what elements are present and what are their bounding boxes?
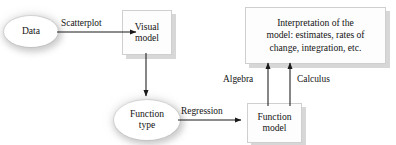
node-interpretation-label: Interpretation of the model: estimates, … [266,17,364,53]
node-function-type-label: Function type [130,109,164,130]
node-data: Data [4,16,58,47]
edge-label-regression: Regression [181,106,223,116]
edge-label-scatterplot: Scatterplot [61,18,102,28]
node-interpretation: Interpretation of the model: estimates, … [245,7,386,64]
edge-label-algebra: Algebra [223,74,253,84]
node-data-label: Data [22,26,40,37]
node-function-model-label: Function model [257,112,291,133]
edge-label-calculus: Calculus [297,74,330,84]
node-function-type: Function type [114,100,180,140]
node-function-model: Function model [247,103,302,143]
flow-diagram: Data Visual model Function type Function… [0,0,396,145]
node-visual-model: Visual model [122,10,172,55]
node-visual-model-label: Visual model [135,22,159,43]
